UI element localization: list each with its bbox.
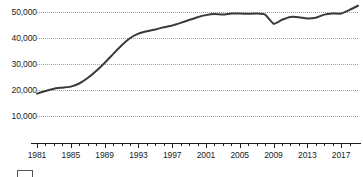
x-axis-minor-tick (79, 143, 80, 146)
x-axis-minor-tick (45, 143, 46, 146)
x-axis-label: 2005 (230, 150, 249, 160)
x-axis-major-tick (341, 143, 342, 148)
x-axis-label: 1981 (28, 150, 47, 160)
x-axis-label: 1985 (62, 150, 81, 160)
x-axis-minor-tick (299, 143, 300, 146)
x-axis-minor-tick (290, 143, 291, 146)
x-axis-major-tick (206, 143, 207, 148)
x-axis-label: 2017 (332, 150, 351, 160)
x-axis-minor-tick (282, 143, 283, 146)
x-axis-minor-tick (54, 143, 55, 146)
x-axis-minor-tick (164, 143, 165, 146)
x-axis-minor-tick (214, 143, 215, 146)
x-axis-minor-tick (189, 143, 190, 146)
x-axis-major-tick (71, 143, 72, 148)
x-axis-minor-tick (316, 143, 317, 146)
x-axis-minor-tick (350, 143, 351, 146)
x-axis-minor-tick (147, 143, 148, 146)
x-axis-minor-tick (265, 143, 266, 146)
figure-number-box (17, 170, 33, 177)
x-axis-major-tick (240, 143, 241, 148)
x-axis-minor-tick (88, 143, 89, 146)
x-axis-major-tick (274, 143, 275, 148)
x-axis-minor-tick (333, 143, 334, 146)
x-axis-minor-tick (231, 143, 232, 146)
x-axis-label: 2013 (298, 150, 317, 160)
figure-caption (0, 170, 363, 177)
x-axis-minor-tick (223, 143, 224, 146)
x-axis-minor-tick (155, 143, 156, 146)
x-axis-major-tick (105, 143, 106, 148)
x-axis-major-tick (307, 143, 308, 148)
x-axis-line (31, 143, 361, 144)
x-axis-label: 2009 (264, 150, 283, 160)
x-axis-major-tick (138, 143, 139, 148)
chart-container: 50,000 40,000 30,000 20,000 10,000 19811… (0, 0, 363, 177)
x-axis-major-tick (37, 143, 38, 148)
x-axis-label: 1993 (129, 150, 148, 160)
x-axis-minor-tick (248, 143, 249, 146)
x-axis-minor-tick (62, 143, 63, 146)
data-line-series-0 (37, 6, 358, 94)
x-axis-label: 2001 (197, 150, 216, 160)
x-axis-minor-tick (181, 143, 182, 146)
x-axis-minor-tick (96, 143, 97, 146)
x-axis-minor-tick (113, 143, 114, 146)
x-axis-minor-tick (198, 143, 199, 146)
x-axis-major-tick (172, 143, 173, 148)
x-axis-minor-tick (324, 143, 325, 146)
x-axis-label: 1997 (163, 150, 182, 160)
x-axis-minor-tick (122, 143, 123, 146)
x-axis-minor-tick (257, 143, 258, 146)
x-axis-minor-tick (130, 143, 131, 146)
x-axis-label: 1989 (95, 150, 114, 160)
